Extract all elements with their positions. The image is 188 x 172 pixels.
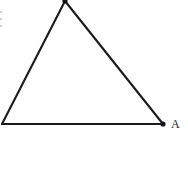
diagram-canvas: A = = =	[0, 0, 188, 172]
triangle-left-edge	[2, 1, 65, 124]
triangle-right-edge	[65, 1, 163, 124]
vertex-label-a: A	[171, 118, 180, 130]
left-margin-fragment-line-3: =	[0, 23, 2, 31]
vertex-dot-a	[160, 121, 165, 126]
triangle-figure	[0, 0, 188, 172]
